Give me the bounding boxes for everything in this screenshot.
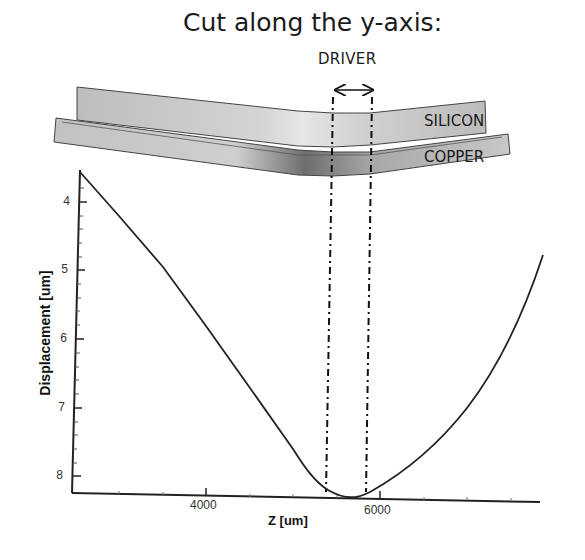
x-tick-label: 6000 xyxy=(364,503,391,517)
y-tick-label: 4 xyxy=(50,194,70,208)
copper-label: COPPER xyxy=(424,148,484,166)
silicon-label: SILICON xyxy=(424,112,484,130)
displacement-curve xyxy=(80,172,543,497)
x-axis xyxy=(72,493,540,502)
figure-canvas xyxy=(0,0,585,560)
x-axis-label: Z [um] xyxy=(268,513,308,528)
y-axis xyxy=(72,170,80,493)
y-axis-label: Displacement [um] xyxy=(37,243,53,423)
x-tick-label: 4000 xyxy=(190,498,217,512)
y-tick-label: 8 xyxy=(43,468,63,482)
